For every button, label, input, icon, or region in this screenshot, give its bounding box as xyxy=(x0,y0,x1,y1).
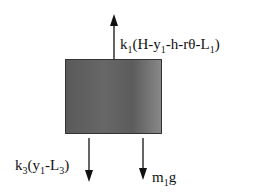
arrow-up-spring1 xyxy=(110,14,118,59)
force-label-spring1: k1(H-y1-h-rθ-L1) xyxy=(120,37,220,55)
force-label-spring3: k3(y1-L3) xyxy=(15,158,69,176)
force-label-weight: m1g xyxy=(152,170,176,188)
arrow-down-spring3 xyxy=(85,138,93,182)
arrow-down-weight xyxy=(139,138,147,180)
